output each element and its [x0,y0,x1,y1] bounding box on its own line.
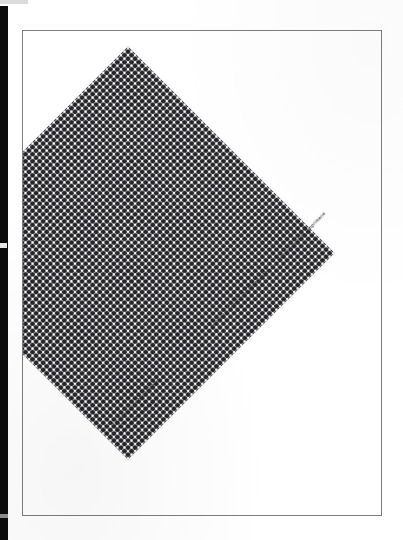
journal-cover-sheet: Typographische Monatsblätter Nr 5 Mai 19… [22,30,382,516]
scan-top-smudge [0,0,28,4]
scanner-edge-nick [0,243,7,248]
scanned-page-canvas: Typographische Monatsblätter Nr 5 Mai 19… [0,0,403,540]
cover-artwork-area [23,31,381,515]
scanner-edge-artifact [0,0,8,540]
